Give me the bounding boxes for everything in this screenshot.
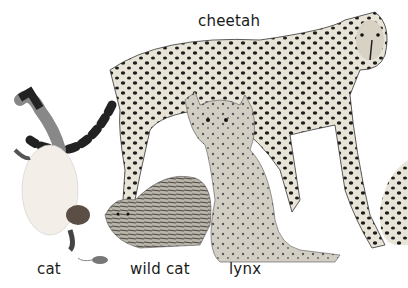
label-cheetah: cheetah bbox=[198, 12, 260, 30]
label-lynx: lynx bbox=[229, 260, 261, 278]
label-wild-cat: wild cat bbox=[130, 260, 190, 278]
partial-cat-right-edge bbox=[380, 160, 408, 245]
mouse-figure bbox=[78, 256, 108, 264]
label-cat: cat bbox=[37, 260, 61, 278]
domestic-cat-figure bbox=[15, 92, 90, 250]
wild-cat-figure bbox=[105, 176, 211, 248]
cat-family-illustration bbox=[0, 0, 408, 288]
